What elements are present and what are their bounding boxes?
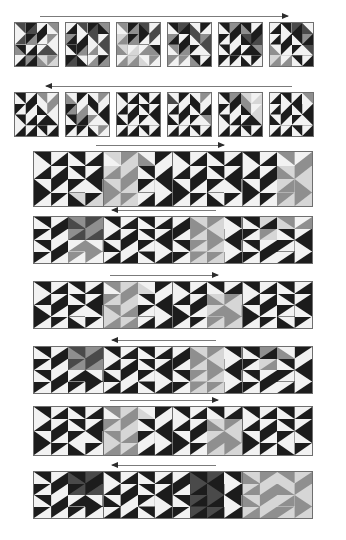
triangle-unit [207,166,224,180]
triangle-unit [37,115,48,126]
triangle-unit [34,282,51,294]
triangle-unit [34,419,51,431]
triangle-unit [34,443,51,455]
triangle-unit [190,193,207,207]
triangle-unit [138,229,155,241]
quilt-block-container [116,22,161,67]
quilt-block [243,152,313,206]
triangle-unit [270,125,281,136]
triangle-unit [121,179,138,193]
triangle-unit [51,193,68,207]
triangle-unit [243,347,260,359]
triangle-unit [51,252,68,264]
triangle-unit [243,507,260,519]
triangle-unit [37,93,48,104]
triangle-unit [173,305,190,317]
triangle-unit [128,45,139,56]
triangle-unit [277,179,294,193]
triangle-unit [224,317,241,329]
triangle-unit [104,282,121,294]
triangle-unit [277,152,294,166]
arrow-shaft [46,86,292,87]
triangle-unit [277,495,294,507]
triangle-unit [15,104,26,115]
triangle-unit [302,115,313,126]
triangle-unit [47,23,58,34]
triangle-unit [51,217,68,229]
triangle-unit [138,152,155,166]
triangle-unit [138,370,155,382]
triangle-unit [139,45,150,56]
triangle-unit [243,294,260,306]
triangle-unit [260,152,277,166]
triangle-unit [85,347,102,359]
triangle-unit [260,484,277,496]
triangle-unit [155,166,172,180]
triangle-unit [104,382,121,394]
triangle-unit [292,125,303,136]
triangle-unit [168,45,179,56]
triangle-unit [104,317,121,329]
triangle-unit [190,45,201,56]
quilt-block [270,23,313,66]
triangle-unit [98,115,109,126]
triangle-unit [243,382,260,394]
triangle-unit [173,431,190,443]
triangle-unit [15,23,26,34]
quilt-row-strip [33,406,313,456]
triangle-unit [138,419,155,431]
triangle-unit [51,229,68,241]
triangle-unit [224,419,241,431]
triangle-unit [68,407,85,419]
triangle-unit [190,104,201,115]
triangle-unit [66,45,77,56]
triangle-unit [302,125,313,136]
triangle-unit [34,359,51,371]
triangle-unit [155,431,172,443]
triangle-unit [302,34,313,45]
triangle-unit [68,484,85,496]
triangle-unit [34,407,51,419]
triangle-unit [85,152,102,166]
quilt-row-strip [33,471,313,519]
triangle-unit [168,23,179,34]
triangle-unit [51,317,68,329]
triangle-unit [51,484,68,496]
triangle-unit [260,443,277,455]
triangle-unit [15,125,26,136]
quilt-block [66,93,109,136]
triangle-unit [190,93,201,104]
triangle-unit [173,370,190,382]
triangle-unit [243,282,260,294]
triangle-unit [295,359,312,371]
triangle-unit [270,93,281,104]
triangle-unit [179,55,190,66]
triangle-unit [243,443,260,455]
triangle-unit [85,229,102,241]
triangle-unit [243,240,260,252]
triangle-unit [34,484,51,496]
triangle-unit [149,45,160,56]
triangle-unit [149,104,160,115]
triangle-unit [51,419,68,431]
direction-arrow-row-7 [110,396,218,405]
triangle-unit [168,55,179,66]
triangle-unit [51,282,68,294]
triangle-unit [155,382,172,394]
triangle-unit [51,166,68,180]
triangle-unit [243,252,260,264]
triangle-unit [281,104,292,115]
triangle-unit [219,115,230,126]
triangle-unit [121,359,138,371]
triangle-unit [37,34,48,45]
quilt-block-container [167,92,212,137]
triangle-unit [88,55,99,66]
triangle-unit [230,104,241,115]
triangle-unit [224,294,241,306]
triangle-unit [139,115,150,126]
triangle-unit [138,472,155,484]
triangle-unit [207,484,224,496]
triangle-unit [270,45,281,56]
triangle-unit [138,484,155,496]
triangle-unit [51,382,68,394]
